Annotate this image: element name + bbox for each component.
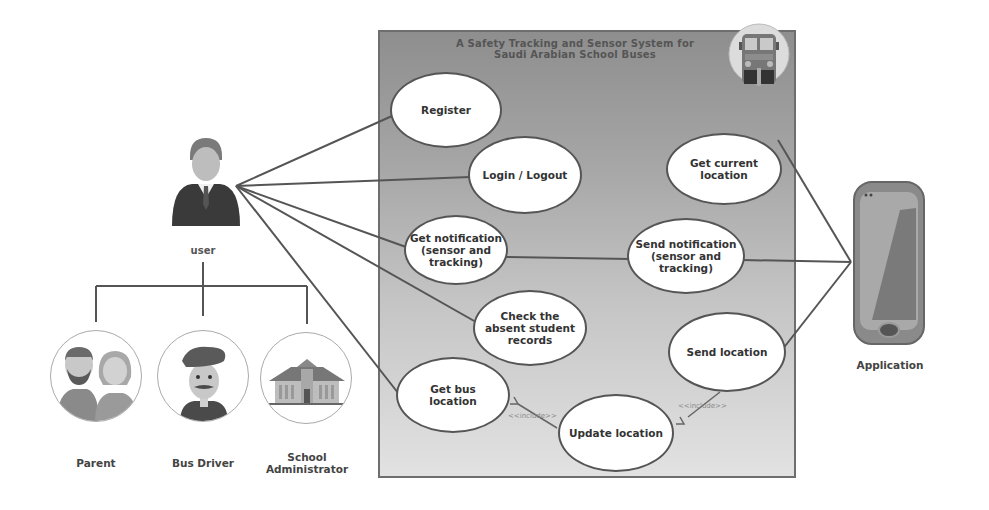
usecase-send-location[interactable]: Send location — [668, 312, 786, 392]
bus-driver-actor-label: Bus Driver — [158, 457, 248, 469]
application-actor-label: Application — [848, 359, 932, 371]
school-admin-actor-label: School Administrator — [262, 451, 352, 475]
usecase-register[interactable]: Register — [390, 72, 502, 148]
usecase-send-notification[interactable]: Send notification (sensor and tracking) — [627, 218, 745, 294]
usecase-update-location[interactable]: Update location — [558, 394, 674, 472]
bus-driver-icon — [157, 330, 249, 422]
usecase-get-current-location[interactable]: Get current location — [666, 133, 782, 205]
businessman-icon — [168, 134, 240, 228]
include-label-left: <<include>> — [508, 412, 557, 420]
usecase-get-bus-location[interactable]: Get bus location — [396, 357, 510, 433]
parent-actor-label: Parent — [56, 457, 136, 469]
mobile-phone-icon — [852, 180, 926, 346]
user-actor-label: user — [183, 245, 223, 257]
use-case-diagram: A Safety Tracking and Sensor System for … — [0, 0, 989, 510]
school-building-icon — [260, 332, 352, 424]
usecase-check-absent-records[interactable]: Check the absent student records — [473, 290, 587, 366]
usecase-get-notification[interactable]: Get notification (sensor and tracking) — [404, 215, 508, 285]
usecase-login-logout[interactable]: Login / Logout — [468, 136, 582, 214]
include-label-right: <<include>> — [678, 402, 727, 410]
parents-couple-icon — [50, 330, 142, 422]
